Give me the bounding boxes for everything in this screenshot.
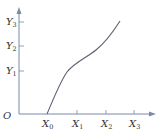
svg-text:X2: X2 <box>100 118 112 131</box>
svg-text:Y3: Y3 <box>6 16 17 29</box>
x-label-0-sub: 0 <box>49 123 53 131</box>
x-label-3-sub: 3 <box>136 123 140 131</box>
x-label-2-sub: 2 <box>108 123 112 131</box>
y-label-1-sub: 1 <box>13 70 17 78</box>
svg-text:X0: X0 <box>41 118 53 131</box>
svg-text:X3: X3 <box>128 118 140 131</box>
y-label-3-sub: 3 <box>13 21 17 29</box>
curve <box>47 21 120 114</box>
y-label-2-sub: 2 <box>13 45 17 53</box>
svg-text:X1: X1 <box>71 118 83 131</box>
svg-text:O: O <box>3 110 11 121</box>
x-label-1-sub: 1 <box>79 123 83 131</box>
svg-text:Y1: Y1 <box>6 65 17 78</box>
svg-text:Y2: Y2 <box>6 40 17 53</box>
y-axis-arrow-icon <box>17 7 22 14</box>
origin-label: O <box>3 110 11 121</box>
diagram-canvas: O X0 X1 X2 X3 Y1 Y2 Y3 <box>0 0 161 138</box>
x-axis-arrow-icon <box>149 112 156 117</box>
